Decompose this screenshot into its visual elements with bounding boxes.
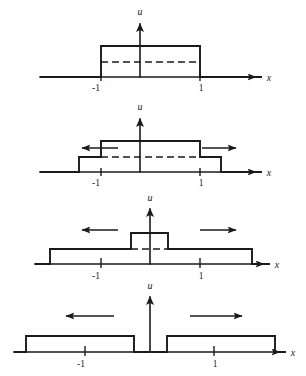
panel-2-x-axis-label: x [266, 167, 272, 178]
panel-2-tick-label-one: 1 [199, 178, 204, 188]
panel-4-u-axis-label: u [148, 280, 153, 291]
panel-4-tick-label-minus-one: -1 [77, 359, 85, 369]
panel-4-waveform-right [151, 336, 286, 352]
panel-2: -1 1 x u [40, 101, 272, 188]
panel-2-u-axis-label: u [138, 101, 143, 112]
panel-1: -1 1 x u [40, 6, 272, 93]
panel-3-x-axis-label: x [274, 259, 280, 270]
panel-1-x-axis-label: x [266, 72, 272, 83]
panel-4-x-axis-label: x [290, 347, 296, 358]
panel-4-waveform-left [14, 336, 149, 352]
panel-3-tick-label-minus-one: -1 [92, 271, 100, 281]
panel-2-tick-label-minus-one: -1 [92, 178, 100, 188]
panel-1-tick-label-one: 1 [199, 83, 204, 93]
figure-canvas: -1 1 x u -1 1 x u [0, 0, 306, 376]
panel-3-tick-label-one: 1 [199, 271, 204, 281]
panel-4: -1 1 x u [14, 280, 296, 369]
panel-4-tick-label-one: 1 [213, 359, 218, 369]
panel-1-u-axis-label: u [138, 6, 143, 17]
panel-1-tick-label-minus-one: -1 [92, 83, 100, 93]
panel-3-waveform [35, 233, 270, 264]
panel-3-u-axis-label: u [148, 192, 153, 203]
figure-wave-splitting: -1 1 x u -1 1 x u [0, 0, 306, 376]
panel-3: -1 1 x u [35, 192, 280, 281]
